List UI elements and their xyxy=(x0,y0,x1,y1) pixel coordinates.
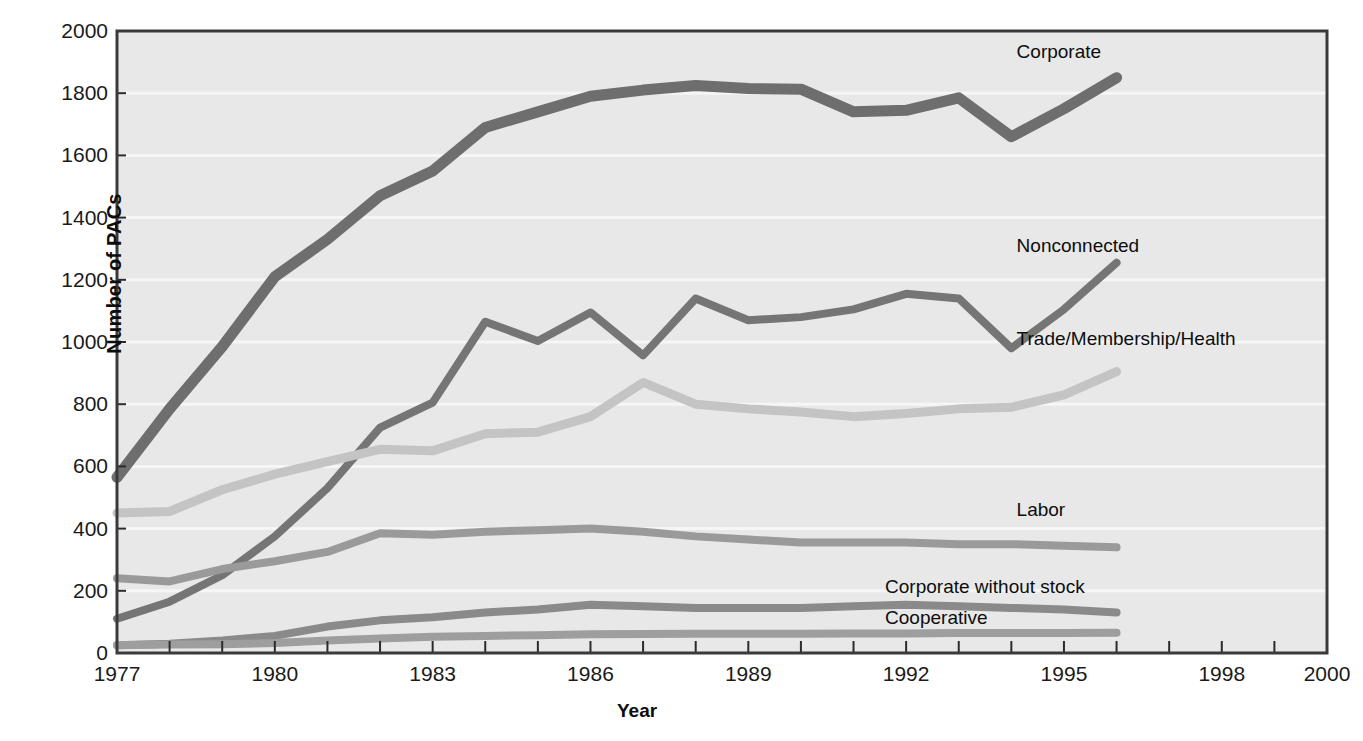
y-tick-label: 400 xyxy=(18,517,108,541)
y-tick-label: 600 xyxy=(18,454,108,478)
y-axis-tick-labels: 0200400600800100012001400160018002000 xyxy=(18,0,108,741)
series-label-corporate-without-stock: Corporate without stock xyxy=(885,576,1085,598)
y-axis-title: Number of PACs xyxy=(103,184,126,364)
y-tick-label: 1600 xyxy=(18,143,108,167)
y-tick-label: 800 xyxy=(18,392,108,416)
y-tick-label: 1400 xyxy=(18,206,108,230)
series-label-cooperative: Cooperative xyxy=(885,607,987,629)
y-tick-label: 2000 xyxy=(18,19,108,43)
y-tick-label: 0 xyxy=(18,641,108,665)
series-label-nonconnected: Nonconnected xyxy=(1017,235,1140,257)
y-tick-label: 1000 xyxy=(18,330,108,354)
line-chart-canvas xyxy=(0,0,1363,741)
series-label-labor: Labor xyxy=(1017,499,1066,521)
y-tick-label: 200 xyxy=(18,579,108,603)
y-tick-label: 1800 xyxy=(18,81,108,105)
series-label-corporate: Corporate xyxy=(1017,41,1102,63)
x-axis-title: Year xyxy=(617,700,657,722)
chart-figure: 0200400600800100012001400160018002000 19… xyxy=(0,0,1363,741)
series-label-trade-membership-health: Trade/Membership/Health xyxy=(1017,328,1236,350)
y-tick-label: 1200 xyxy=(18,268,108,292)
